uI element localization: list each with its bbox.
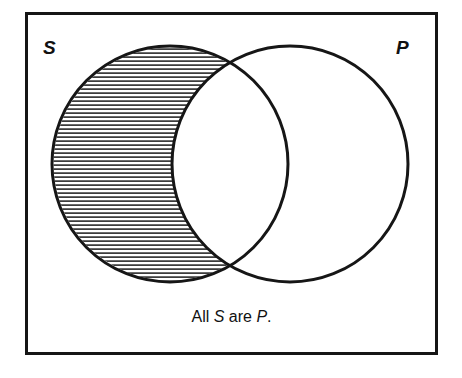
caption-suffix: .	[267, 308, 271, 325]
diagram-caption: All S are P.	[25, 308, 438, 326]
caption-subject-term: S	[214, 308, 225, 325]
set-label-p: P	[396, 38, 409, 57]
caption-predicate-term: P	[256, 308, 267, 325]
venn-diagram-figure: S P All S are P.	[0, 0, 462, 378]
set-label-s: S	[43, 38, 56, 57]
caption-middle: are	[224, 308, 256, 325]
caption-prefix: All	[191, 308, 213, 325]
